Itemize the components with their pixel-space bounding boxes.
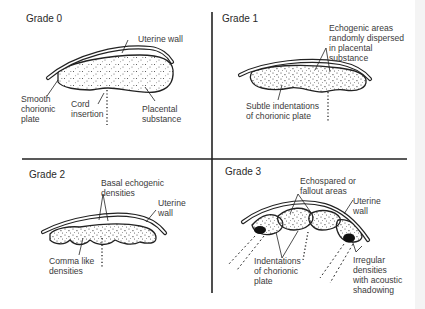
grade-1-subtle-indentations-label: Subtle indentations of chorionic plate bbox=[246, 101, 319, 121]
placental-grading-diagram: Grade 0 Uterine wall Smooth chorionic pl… bbox=[0, 0, 425, 309]
grade-2-title: Grade 2 bbox=[29, 169, 65, 180]
grade-3-indentations-label: Indentations of chorionic plate bbox=[254, 256, 301, 286]
grade-0-placental-substance-label: Placental substance bbox=[142, 104, 181, 124]
grade-1-title: Grade 1 bbox=[222, 13, 258, 24]
grade-0-cord-insertion-label: Cord insertion bbox=[71, 99, 103, 119]
grade-3-echospared-label: Echospared or fallout areas bbox=[300, 176, 356, 196]
grade-1-echogenic-areas-label: Echogenic areas randomly dispersed in pl… bbox=[329, 23, 404, 63]
grade-2-basal-echogenic-label: Basal echogenic densities bbox=[101, 178, 164, 198]
grade-3-title: Grade 3 bbox=[225, 166, 261, 177]
grade-3-uterine-wall-label: Uterine wall bbox=[353, 196, 381, 216]
grade-2-uterine-wall-label: Uterine wall bbox=[158, 198, 186, 218]
grade-0-smooth-chorionic-plate-label: Smooth chorionic plate bbox=[21, 94, 55, 124]
grade-2-comma-like-label: Comma like densities bbox=[49, 256, 94, 276]
grade-3-irregular-densities-label: Irregular densities with acoustic shadow… bbox=[353, 255, 402, 295]
grade-0-title: Grade 0 bbox=[26, 13, 62, 24]
grade-0-uterine-wall-label: Uterine wall bbox=[138, 34, 183, 44]
